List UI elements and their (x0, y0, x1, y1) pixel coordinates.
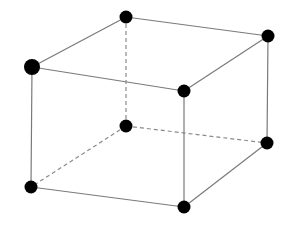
cube-diagram (0, 0, 296, 230)
vertex-front-bottom-left (25, 181, 38, 194)
vertex-front-top-left (24, 59, 40, 75)
background (0, 0, 296, 230)
vertex-back-bottom-left (120, 120, 133, 133)
vertex-back-top-right (262, 30, 275, 43)
vertex-back-bottom-right (261, 137, 274, 150)
vertex-front-bottom-right (178, 201, 191, 214)
vertex-front-top-right (178, 85, 191, 98)
vertex-back-top-left (120, 11, 133, 24)
